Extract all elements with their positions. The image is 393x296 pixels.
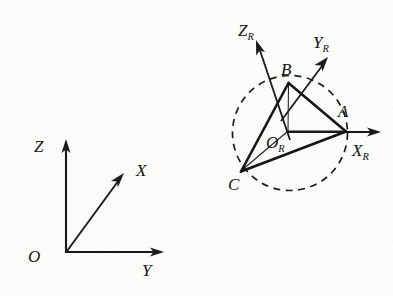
vertex-label-b: B: [281, 60, 292, 79]
rotated-axis-xr: XR: [288, 128, 381, 163]
world-axis-y: Y: [66, 248, 164, 281]
vertex-label-a: A: [337, 102, 349, 121]
dashed-circumcircle: [233, 76, 348, 191]
triangle-edge-ca: [241, 132, 346, 172]
world-axis-y-label: Y: [142, 261, 153, 280]
triangle-edge-bc: [241, 83, 289, 172]
world-axis-x: X: [67, 161, 147, 251]
figure-root: Z Y X O: [0, 0, 393, 296]
rotated-axis-zr: ZR: [238, 21, 290, 140]
world-origin-label: O: [28, 247, 40, 266]
coordinate-frames-diagram: Z Y X O: [0, 0, 393, 296]
world-axis-x-line: [67, 182, 118, 251]
world-axis-x-label: X: [135, 161, 147, 180]
world-coordinate-frame: Z Y X O: [28, 137, 164, 280]
rotated-axis-yr-label: YR: [313, 33, 329, 54]
world-axis-z: Z: [34, 137, 71, 253]
origin-spokes: [241, 84, 346, 171]
rotated-axis-zr-label: ZR: [238, 21, 254, 42]
spoke-or-to-b: [288, 84, 289, 131]
world-axis-z-label: Z: [34, 137, 44, 156]
rotated-frame-group: ZR YR XR: [228, 21, 381, 194]
world-axis-x-arrowhead: [111, 173, 124, 188]
vertex-label-c: C: [228, 175, 240, 194]
rotated-axis-xr-label: XR: [351, 141, 369, 162]
rotated-axis-yr-arrowhead: [315, 57, 329, 72]
